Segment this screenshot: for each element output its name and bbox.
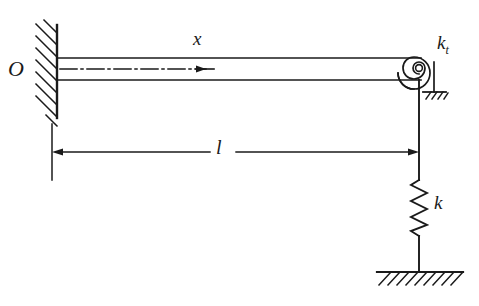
x-axis-label: x xyxy=(193,28,201,50)
torsional-spring-label-subscript: t xyxy=(445,43,448,57)
dimension-arrowhead-left xyxy=(52,148,63,155)
wall-hatching xyxy=(36,20,57,126)
origin-label: O xyxy=(8,56,24,82)
length-label: l xyxy=(216,136,222,159)
torsional-spring-label: kt xyxy=(437,32,449,58)
linear-spring-label: k xyxy=(434,192,442,214)
length-dimension xyxy=(52,124,419,180)
ground-hatching xyxy=(379,273,462,285)
torsional-spring-spiral xyxy=(398,57,430,89)
dimension-arrowhead-right xyxy=(408,148,419,155)
engineering-diagram: O x l k kt xyxy=(0,0,479,306)
torsional-spring-ground xyxy=(423,62,448,99)
beam xyxy=(57,58,421,80)
ground-support xyxy=(377,272,463,285)
beam-centerline xyxy=(60,66,214,73)
linear-spring-zigzag xyxy=(411,180,427,236)
torsional-ground-hatching xyxy=(426,92,448,99)
diagram-canvas xyxy=(0,0,479,306)
fixed-wall-support xyxy=(36,20,57,126)
